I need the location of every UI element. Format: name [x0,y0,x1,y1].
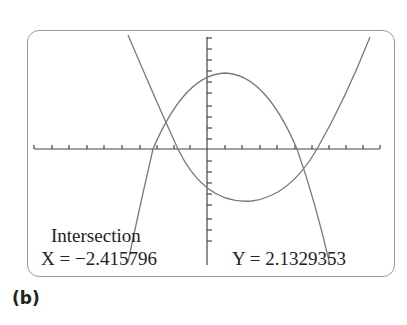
graph-plot [0,0,407,325]
y-axis [207,37,212,265]
downward-parabola-curve [128,73,330,265]
figure-caption: (b) [12,288,40,308]
upward-parabola-curve [128,35,370,201]
y-axis-ticks [207,38,212,241]
y-value-readout: Y = 2.1329353 [232,249,346,268]
x-value-readout: X = −2.415796 [41,249,157,268]
intersection-label: Intersection [51,226,141,245]
